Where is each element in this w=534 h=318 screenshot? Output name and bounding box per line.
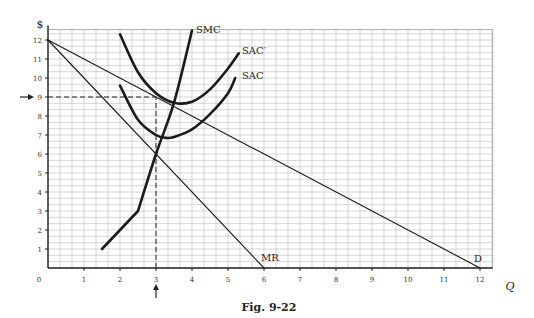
x-tick-label: 4 — [190, 276, 195, 284]
x-tick-label: 3 — [154, 276, 158, 284]
x-tick-label: 11 — [440, 276, 449, 284]
label-smc: SMC — [196, 24, 221, 35]
curve-sac-prime — [120, 34, 239, 103]
y-tick-label: 10 — [33, 75, 42, 83]
label-d: D — [474, 253, 482, 264]
arrowhead-icon — [28, 94, 34, 100]
x-tick-label: 8 — [334, 276, 338, 284]
y-tick-label: 3 — [38, 208, 42, 216]
label-sac: SAC — [242, 70, 264, 81]
x-axis-title: Q — [505, 280, 514, 293]
grid — [48, 30, 493, 268]
y-axis-title: $ — [37, 18, 44, 31]
curve-smc — [102, 31, 192, 250]
y-tick-label: 5 — [38, 170, 42, 178]
x-tick-label: 1 — [82, 276, 86, 284]
x-tick-label: 6 — [262, 276, 267, 284]
y-tick-labels: 123456789101112 — [33, 37, 42, 254]
x-tick-labels: 123456789101112 — [82, 276, 485, 284]
origin-label: 0 — [37, 276, 41, 284]
y-tick-label: 4 — [38, 189, 43, 197]
y-tick-label: 12 — [33, 37, 42, 45]
y-tick-label: 9 — [38, 94, 42, 102]
axes — [45, 26, 493, 271]
figure-9-22-chart: 123456789101112 123456789101112 $ Q 0 SM… — [0, 0, 534, 318]
x-tick-label: 2 — [118, 276, 122, 284]
y-tick-label: 2 — [38, 227, 42, 235]
label-sac-prime: SAC′ — [242, 45, 267, 56]
y-tick-label: 1 — [38, 246, 42, 254]
x-tick-label: 7 — [298, 276, 302, 284]
x-tick-label: 5 — [226, 276, 230, 284]
y-tick-label: 7 — [38, 132, 42, 140]
x-tick-label: 12 — [476, 276, 485, 284]
y-tick-label: 8 — [38, 113, 42, 121]
y-tick-label: 11 — [33, 56, 42, 64]
x-tick-label: 9 — [370, 276, 374, 284]
x-tick-label: 10 — [404, 276, 413, 284]
label-mr: MR — [261, 252, 279, 263]
figure-caption: Fig. 9-22 — [242, 301, 297, 314]
y-tick-label: 6 — [38, 151, 43, 159]
arrowhead-icon — [153, 284, 159, 290]
